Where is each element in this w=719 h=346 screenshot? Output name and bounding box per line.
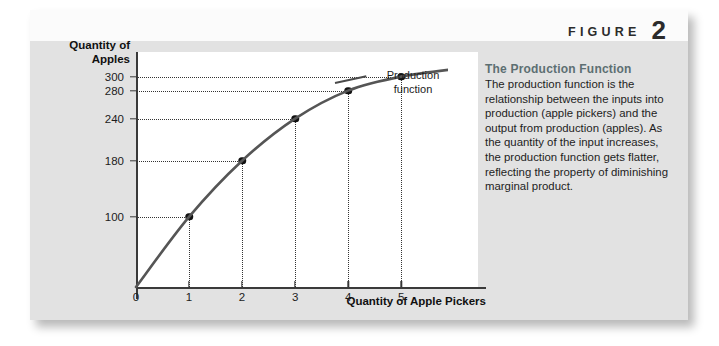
x-tick-label: 2 — [239, 291, 245, 303]
caption-title: The Production Function — [485, 62, 670, 76]
x-tick-label: 3 — [292, 291, 298, 303]
y-axis-title: Quantity of Apples — [68, 38, 130, 67]
curve-label: Production function — [368, 68, 458, 97]
x-guide-line — [348, 91, 349, 287]
y-guide-line — [136, 161, 242, 162]
x-guide-line — [242, 161, 243, 287]
caption-body: The production function is the relations… — [485, 77, 670, 194]
data-point — [291, 115, 299, 123]
x-tick-label: 0 — [133, 291, 139, 303]
data-point — [185, 213, 193, 221]
x-guide-line — [189, 217, 190, 287]
production-function-chart: Quantity of Apples Quantity of Apple Pic… — [68, 32, 448, 307]
figure-number: 2 — [652, 17, 666, 43]
figure-header: FIGURE 2 — [568, 14, 666, 40]
y-tick-label: 280 — [84, 85, 124, 97]
y-guide-line — [136, 119, 295, 120]
data-point — [344, 87, 352, 95]
caption: The Production Function The production f… — [485, 62, 670, 194]
x-tick-label: 5 — [398, 291, 404, 303]
figure-label: FIGURE — [568, 25, 640, 39]
y-tick-label: 100 — [84, 211, 124, 223]
data-point — [238, 157, 246, 165]
x-tick-label: 1 — [186, 291, 192, 303]
x-guide-line — [295, 119, 296, 287]
y-tick-label: 240 — [84, 113, 124, 125]
y-guide-line — [136, 91, 348, 92]
x-axis-title: Quantity of Apple Pickers — [300, 294, 486, 308]
y-tick-label: 300 — [84, 71, 124, 83]
y-guide-line — [136, 217, 189, 218]
figure-card: FIGURE 2 Quantity of Apples Quantity of … — [30, 10, 688, 320]
x-guide-line — [401, 77, 402, 287]
x-tick-label: 4 — [345, 291, 351, 303]
y-tick-label: 180 — [84, 155, 124, 167]
